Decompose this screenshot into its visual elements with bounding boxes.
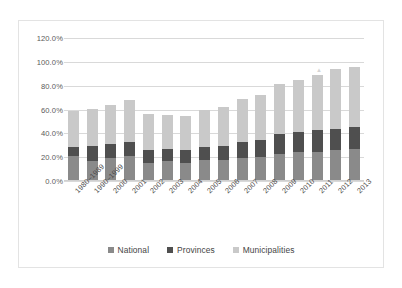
bar-segment-provinces[interactable] bbox=[218, 146, 229, 160]
x-label-slot: 2007 bbox=[233, 184, 252, 244]
bar-segment-national[interactable] bbox=[124, 156, 135, 181]
bar-segment-municipalities[interactable] bbox=[274, 84, 285, 134]
stacked-bar[interactable] bbox=[255, 95, 266, 181]
bar-segment-provinces[interactable] bbox=[237, 142, 248, 157]
bar-segment-municipalities[interactable] bbox=[143, 114, 154, 150]
y-axis-tick-label: 20.0% bbox=[19, 153, 63, 162]
bar-segment-municipalities[interactable] bbox=[293, 80, 304, 132]
bar-segment-national[interactable] bbox=[349, 149, 360, 181]
stacked-bar[interactable] bbox=[274, 84, 285, 181]
bar-segment-municipalities[interactable] bbox=[68, 111, 79, 147]
bar-segment-municipalities[interactable] bbox=[124, 100, 135, 142]
bar-segment-provinces[interactable] bbox=[293, 132, 304, 152]
y-axis-labels: 0.0%20.0%40.0%60.0%80.0%100.0%120.0% bbox=[18, 38, 63, 181]
bar-segment-municipalities[interactable] bbox=[237, 99, 248, 142]
stacked-bar[interactable] bbox=[218, 107, 229, 181]
bar-segment-provinces[interactable] bbox=[124, 142, 135, 156]
x-label-slot: 2001 bbox=[120, 184, 139, 244]
bar-segment-national[interactable] bbox=[312, 152, 323, 181]
bar-segment-national[interactable] bbox=[162, 161, 173, 181]
legend-swatch-icon bbox=[167, 247, 173, 253]
x-label-slot: 2010 bbox=[289, 184, 308, 244]
chart-container: 0.0%20.0%40.0%60.0%80.0%100.0%120.0% ▲ 1… bbox=[18, 20, 384, 268]
bar-slot bbox=[102, 38, 121, 181]
bar-segment-provinces[interactable] bbox=[274, 134, 285, 154]
legend-label: Municipalities bbox=[243, 245, 295, 255]
stray-artifact-mark: ▲ bbox=[316, 67, 322, 73]
legend-item-national[interactable]: National bbox=[108, 245, 150, 255]
x-label-slot: 1990–1999 bbox=[83, 184, 102, 244]
bar-slot bbox=[289, 38, 308, 181]
stacked-bar[interactable] bbox=[199, 110, 210, 181]
bar-segment-municipalities[interactable] bbox=[218, 107, 229, 146]
bar-slot bbox=[345, 38, 364, 181]
bar-segment-provinces[interactable] bbox=[87, 146, 98, 160]
plot-area bbox=[64, 38, 364, 181]
x-label-slot: 2006 bbox=[214, 184, 233, 244]
y-axis-tick-label: 40.0% bbox=[19, 129, 63, 138]
bar-segment-provinces[interactable] bbox=[255, 140, 266, 157]
bar-segment-national[interactable] bbox=[293, 152, 304, 181]
bar-slot bbox=[177, 38, 196, 181]
bar-segment-provinces[interactable] bbox=[162, 149, 173, 162]
stacked-bar[interactable] bbox=[312, 75, 323, 181]
bar-slot bbox=[195, 38, 214, 181]
y-axis-tick-label: 120.0% bbox=[19, 34, 63, 43]
bar-segment-provinces[interactable] bbox=[330, 129, 341, 150]
bar-segment-provinces[interactable] bbox=[105, 144, 116, 158]
stacked-bar[interactable] bbox=[68, 111, 79, 181]
stacked-bar[interactable] bbox=[162, 115, 173, 181]
bar-segment-national[interactable] bbox=[255, 157, 266, 181]
stacked-bar[interactable] bbox=[349, 67, 360, 181]
bar-slot bbox=[252, 38, 271, 181]
x-label-slot: 2004 bbox=[177, 184, 196, 244]
bar-segment-national[interactable] bbox=[274, 154, 285, 181]
legend-item-provinces[interactable]: Provinces bbox=[167, 245, 215, 255]
bar-slot bbox=[64, 38, 83, 181]
bar-segment-national[interactable] bbox=[237, 158, 248, 181]
bar-slot bbox=[270, 38, 289, 181]
stacked-bar[interactable] bbox=[293, 80, 304, 181]
stacked-bar[interactable] bbox=[143, 114, 154, 181]
x-label-slot: 1980–1989 bbox=[64, 184, 83, 244]
y-axis-tick-label: 60.0% bbox=[19, 105, 63, 114]
bar-segment-national[interactable] bbox=[68, 156, 79, 181]
x-axis-labels: 1980–19891990–19992000200120022003200420… bbox=[64, 184, 364, 244]
bar-segment-provinces[interactable] bbox=[143, 150, 154, 163]
bar-slot bbox=[233, 38, 252, 181]
y-axis-tick-label: 100.0% bbox=[19, 57, 63, 66]
bar-segment-national[interactable] bbox=[330, 150, 341, 181]
legend-item-municipalities[interactable]: Municipalities bbox=[233, 245, 295, 255]
bar-segment-municipalities[interactable] bbox=[312, 75, 323, 130]
stacked-bar[interactable] bbox=[180, 116, 191, 181]
bar-segment-municipalities[interactable] bbox=[330, 69, 341, 129]
bar-segment-municipalities[interactable] bbox=[105, 105, 116, 144]
stacked-bar[interactable] bbox=[237, 99, 248, 181]
legend-label: National bbox=[118, 245, 150, 255]
bar-segment-municipalities[interactable] bbox=[255, 95, 266, 140]
x-label-slot: 2013 bbox=[345, 184, 364, 244]
bar-slot bbox=[120, 38, 139, 181]
bar-segment-municipalities[interactable] bbox=[162, 115, 173, 149]
bar-segment-municipalities[interactable] bbox=[199, 110, 210, 148]
bar-segment-provinces[interactable] bbox=[180, 150, 191, 163]
bar-segment-provinces[interactable] bbox=[199, 147, 210, 160]
bar-segment-municipalities[interactable] bbox=[349, 67, 360, 127]
bar-segment-national[interactable] bbox=[143, 163, 154, 181]
bar-segment-provinces[interactable] bbox=[68, 147, 79, 156]
x-label-slot: 2000 bbox=[102, 184, 121, 244]
bar-segment-national[interactable] bbox=[180, 163, 191, 181]
stacked-bar[interactable] bbox=[330, 69, 341, 181]
bar-segment-provinces[interactable] bbox=[349, 127, 360, 149]
bar-segment-municipalities[interactable] bbox=[180, 116, 191, 150]
bar-slot bbox=[327, 38, 346, 181]
x-label-slot: 2012 bbox=[327, 184, 346, 244]
bar-segment-national[interactable] bbox=[218, 160, 229, 181]
bar-segment-provinces[interactable] bbox=[312, 130, 323, 151]
legend-swatch-icon bbox=[108, 247, 114, 253]
bar-slot bbox=[139, 38, 158, 181]
bar-segment-national[interactable] bbox=[199, 160, 210, 181]
bar-segment-municipalities[interactable] bbox=[87, 109, 98, 147]
stacked-bar[interactable] bbox=[124, 100, 135, 181]
x-label-slot: 2002 bbox=[139, 184, 158, 244]
